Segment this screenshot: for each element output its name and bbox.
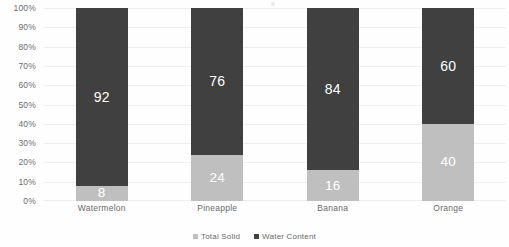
legend-label: Water Content (262, 232, 316, 241)
y-axis-tick-label: 20% (0, 158, 36, 167)
bar-value-label: 76 (209, 74, 225, 88)
y-axis-tick-label: 0% (0, 197, 36, 206)
legend-item[interactable]: Total Solid (193, 232, 240, 241)
bar-group[interactable]: 928 (76, 8, 128, 201)
bar-value-label: 16 (325, 179, 341, 193)
bar-stack: 6040 (422, 8, 474, 201)
bar-group[interactable]: 8416 (307, 8, 359, 201)
y-axis-tick-label: 30% (0, 139, 36, 148)
bar-value-label: 60 (440, 59, 456, 73)
y-axis-tick-label: 100% (0, 4, 36, 13)
bar-value-label: 92 (94, 90, 110, 104)
x-axis-category-label: Watermelon (52, 203, 152, 214)
legend-item[interactable]: Water Content (254, 232, 316, 241)
y-axis-tick-label: 70% (0, 61, 36, 70)
x-axis-category-label: Orange (398, 203, 498, 214)
bar-stack: 928 (76, 8, 128, 201)
y-axis: 0%10%20%30%40%50%60%70%80%90%100% (0, 8, 40, 201)
chart-legend: Total SolidWater Content (0, 229, 509, 243)
bar-group[interactable]: 6040 (422, 8, 474, 201)
y-axis-tick-label: 40% (0, 119, 36, 128)
y-axis-tick-label: 50% (0, 100, 36, 109)
y-axis-tick-label: 60% (0, 81, 36, 90)
bar-segment-water-content[interactable]: 84 (307, 8, 359, 170)
bar-value-label: 40 (440, 155, 456, 169)
bar-stack: 7624 (191, 8, 243, 201)
x-axis-category-label: Banana (283, 203, 383, 214)
y-axis-tick-label: 90% (0, 23, 36, 32)
bar-segment-total-solid[interactable]: 24 (191, 155, 243, 201)
bar-group[interactable]: 7624 (191, 8, 243, 201)
y-axis-tick-label: 80% (0, 42, 36, 51)
legend-swatch-icon (193, 234, 198, 239)
plot-area: 0%10%20%30%40%50%60%70%80%90%100% 928762… (0, 8, 509, 201)
bar-segment-water-content[interactable]: 92 (76, 8, 128, 186)
y-axis-tick-label: 10% (0, 177, 36, 186)
stacked-bar-chart: 0%10%20%30%40%50%60%70%80%90%100% 928762… (0, 0, 509, 247)
legend-swatch-icon (254, 234, 259, 239)
bar-stack: 8416 (307, 8, 359, 201)
bar-segment-total-solid[interactable]: 8 (76, 186, 128, 201)
bar-segment-water-content[interactable]: 60 (422, 8, 474, 124)
bar-value-label: 8 (98, 186, 106, 200)
bar-segment-total-solid[interactable]: 16 (307, 170, 359, 201)
bar-value-label: 24 (209, 171, 225, 185)
bar-segment-total-solid[interactable]: 40 (422, 124, 474, 201)
legend-label: Total Solid (201, 232, 240, 241)
bars-layer: 928762484166040 (44, 8, 506, 201)
x-axis-category-label: Pineapple (167, 203, 267, 214)
bar-value-label: 84 (325, 82, 341, 96)
x-axis-category-labels: WatermelonPineappleBananaOrange (44, 203, 506, 219)
bar-segment-water-content[interactable]: 76 (191, 8, 243, 155)
scan-artifact-speck (271, 2, 275, 6)
